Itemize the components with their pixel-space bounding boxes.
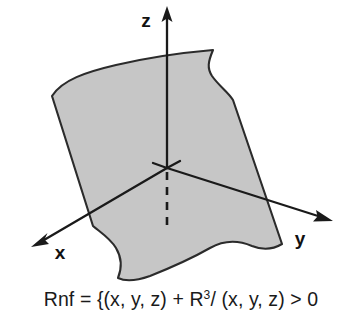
x-axis-label: x bbox=[55, 242, 66, 263]
z-axis-label: z bbox=[141, 10, 151, 31]
figure-container: z x y Rnf = {(x, y, z) + R3/ (x, y, z) >… bbox=[0, 0, 362, 321]
formula-part-two: / (x, y, z) > 0 bbox=[210, 288, 318, 310]
x-axis-arrowhead bbox=[31, 233, 49, 247]
formula-part-one: Rnf = {(x, y, z) + R bbox=[44, 288, 204, 310]
coordinate-system-diagram: z x y bbox=[0, 0, 362, 321]
y-axis-label: y bbox=[295, 228, 306, 249]
formula-caption: Rnf = {(x, y, z) + R3/ (x, y, z) > 0 bbox=[0, 288, 362, 311]
